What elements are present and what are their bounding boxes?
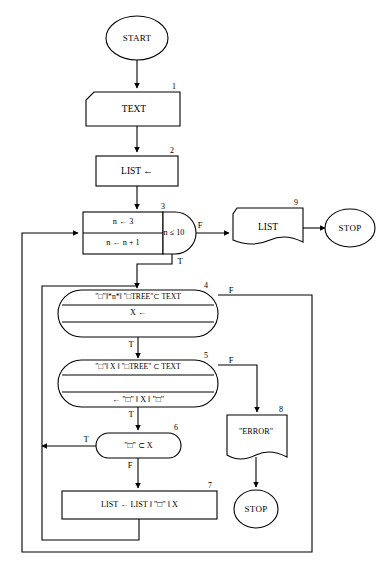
node8-label: "ERROR" bbox=[239, 427, 273, 436]
node6-true-flag: T bbox=[83, 434, 89, 444]
node8-shape-document bbox=[227, 415, 287, 459]
connector-node5-false-to-node8 bbox=[218, 365, 257, 412]
node3-number: 3 bbox=[161, 202, 165, 211]
node7-label: LIST ← LIST ‖ "□" ‖ X bbox=[101, 500, 178, 509]
node6-false-flag: F bbox=[128, 460, 133, 470]
flowchart-canvas: START TEXT 1 LIST ← 2 n ← 3 n ← n + 1 n … bbox=[0, 0, 383, 575]
flowchart-diagram: START TEXT 1 LIST ← 2 n ← 3 n ← n + 1 n … bbox=[0, 0, 383, 575]
node9-label: LIST bbox=[258, 222, 278, 232]
node7-number: 7 bbox=[208, 481, 212, 490]
stop-terminator-error-label: STOP bbox=[244, 504, 267, 514]
node4-false-flag: F bbox=[229, 285, 234, 295]
node3-init-label: n ← 3 bbox=[113, 217, 133, 226]
node5-true-flag: T bbox=[128, 409, 134, 419]
node3-increment-label: n ← n + 1 bbox=[106, 238, 139, 247]
node6-number: 6 bbox=[174, 423, 178, 432]
node5-row3-label: ← "□" ‖ X ‖ "□" bbox=[112, 395, 164, 404]
start-terminator-label: START bbox=[123, 33, 152, 43]
node9-number: 9 bbox=[294, 198, 298, 207]
node1-number: 1 bbox=[172, 82, 176, 91]
node2-label: LIST ← bbox=[121, 166, 153, 176]
node4-row1-label: "□"‖*n*‖ "□TREE"⊂ TEXT bbox=[95, 292, 181, 301]
node4-row2-label: X ← bbox=[130, 308, 146, 317]
node6-label: "□" ⊂ X bbox=[124, 441, 153, 450]
node4-number: 4 bbox=[204, 281, 208, 290]
node8-number: 8 bbox=[279, 405, 283, 414]
node5-row1-label: "□"‖ X ‖ "□TREE" ⊂ TEXT bbox=[95, 362, 181, 371]
node3-true-flag: T bbox=[177, 256, 183, 266]
node2-number: 2 bbox=[170, 146, 174, 155]
node4-true-flag: T bbox=[128, 339, 134, 349]
node5-number: 5 bbox=[204, 351, 208, 360]
node5-false-flag: F bbox=[229, 355, 234, 365]
node1-label: TEXT bbox=[122, 104, 146, 114]
node3-false-flag: F bbox=[198, 220, 203, 230]
stop-terminator-main-label: STOP bbox=[338, 223, 361, 233]
connector-node3-true-to-node4 bbox=[137, 254, 172, 288]
node3-condition-label: n ≤ 10 bbox=[164, 228, 185, 237]
